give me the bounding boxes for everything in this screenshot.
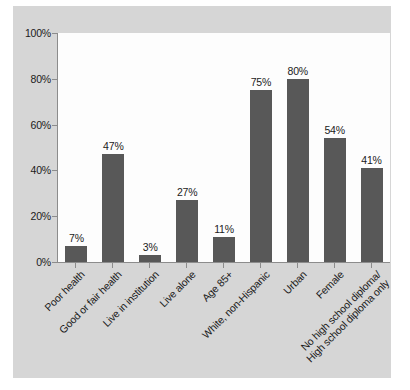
x-axis-category-label: Urban — [281, 269, 309, 297]
bar-group[interactable]: 41% — [361, 33, 383, 262]
bar-value-label: 75% — [251, 76, 271, 88]
y-axis-tick-label: 20% — [31, 210, 51, 222]
x-axis-category-label-line: Female — [313, 268, 345, 300]
x-axis-category-label: Female — [314, 269, 346, 301]
bar-value-label: 11% — [214, 223, 234, 235]
x-axis-tick-mark — [297, 263, 298, 268]
bar-value-label: 54% — [324, 124, 344, 136]
y-axis-tick-label: 80% — [31, 73, 51, 85]
bar-value-label: 27% — [177, 186, 197, 198]
bar[interactable] — [139, 255, 161, 262]
bar[interactable] — [102, 154, 124, 262]
x-axis-labels: Poor healthGood or fair healthLive in in… — [57, 269, 390, 377]
y-axis: 0%20%40%60%80%100% — [13, 33, 51, 262]
bar-group[interactable]: 47% — [102, 33, 124, 262]
x-axis-tick-mark — [149, 263, 150, 268]
plot-area: 7%47%3%27%11%75%80%54%41% — [57, 33, 390, 263]
bar-value-label: 3% — [143, 241, 158, 253]
x-axis-category-label-line: Live alone — [157, 268, 198, 309]
bar-chart-figure: 0%20%40%60%80%100% 7%47%3%27%11%75%80%54… — [13, 6, 391, 378]
bar[interactable] — [361, 168, 383, 262]
bar[interactable] — [287, 79, 309, 262]
bar-value-label: 7% — [69, 232, 84, 244]
x-axis-tick-mark — [260, 263, 261, 268]
bar-group[interactable]: 3% — [139, 33, 161, 262]
x-axis-tick-mark — [371, 263, 372, 268]
bar[interactable] — [213, 237, 235, 262]
x-axis-category-label-line: White, non-Hispanic — [199, 268, 271, 340]
bar-group[interactable]: 75% — [250, 33, 272, 262]
x-axis-category-label: No high school diploma/High school diplo… — [295, 269, 390, 364]
y-axis-tick-label: 60% — [31, 119, 51, 131]
bar-group[interactable]: 27% — [176, 33, 198, 262]
bar-group[interactable]: 54% — [324, 33, 346, 262]
x-axis-category-label-line: Urban — [281, 268, 309, 296]
x-axis-category-label: White, non-Hispanic — [200, 269, 272, 341]
x-axis-category-label: Age 85+ — [200, 269, 235, 304]
x-axis-category-label: Live alone — [158, 269, 199, 310]
bar-value-label: 47% — [103, 140, 123, 152]
bar-value-label: 80% — [288, 65, 308, 77]
bar[interactable] — [65, 246, 87, 262]
x-axis-tick-mark — [334, 263, 335, 268]
x-axis-category-label-line: Age 85+ — [199, 268, 234, 303]
y-axis-tick-label: 0% — [36, 256, 51, 268]
x-axis-tick-mark — [112, 263, 113, 268]
bar-group[interactable]: 11% — [213, 33, 235, 262]
bar[interactable] — [176, 200, 198, 262]
bar[interactable] — [324, 138, 346, 262]
x-axis-tick-mark — [75, 263, 76, 268]
bar-group[interactable]: 7% — [65, 33, 87, 262]
bar-value-label: 41% — [361, 154, 381, 166]
bar[interactable] — [250, 90, 272, 262]
bar-group[interactable]: 80% — [287, 33, 309, 262]
y-axis-tick-label: 40% — [31, 164, 51, 176]
x-axis-tick-mark — [223, 263, 224, 268]
y-axis-tick-label: 100% — [25, 27, 51, 39]
x-axis-tick-mark — [186, 263, 187, 268]
